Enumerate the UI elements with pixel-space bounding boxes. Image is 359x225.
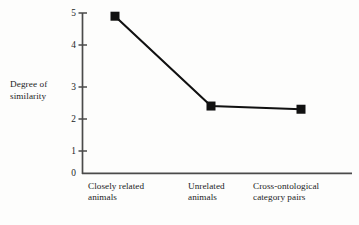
- x-category-label-1-line-1: Unrelated: [188, 181, 225, 192]
- y-tick-label-2: 2: [62, 114, 76, 124]
- x-category-label-0-line-2: animals: [88, 192, 144, 203]
- y-tick-label-5: 5: [62, 8, 76, 18]
- chart-figure: Degree of similarity 5 4 3 2 1 0 Clos: [0, 0, 359, 225]
- x-category-label-0-line-1: Closely related: [88, 181, 144, 192]
- x-category-label-2: Cross-ontological category pairs: [253, 181, 319, 204]
- data-markers: [111, 12, 306, 114]
- x-category-label-2-line-1: Cross-ontological: [253, 181, 319, 192]
- y-tick-label-4: 4: [62, 40, 76, 50]
- data-point-marker-0: [111, 12, 120, 21]
- data-point-marker-2: [297, 105, 306, 114]
- x-category-label-1: Unrelated animals: [188, 181, 225, 204]
- x-category-label-1-line-2: animals: [188, 192, 225, 203]
- y-tick-label-3: 3: [62, 82, 76, 92]
- data-series-line: [115, 16, 301, 109]
- y-tick-label-0: 0: [62, 168, 76, 178]
- y-tick-label-1: 1: [62, 146, 76, 156]
- x-category-label-2-line-2: category pairs: [253, 192, 319, 203]
- data-point-marker-1: [207, 102, 216, 111]
- x-category-label-0: Closely related animals: [88, 181, 144, 204]
